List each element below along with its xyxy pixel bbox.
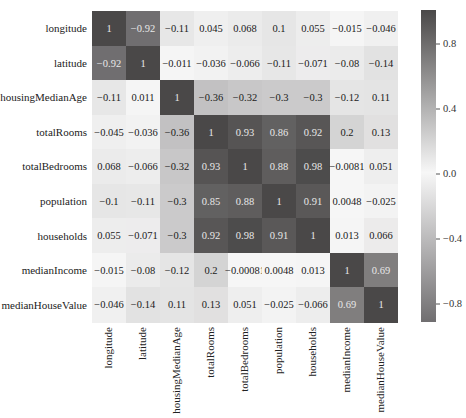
y-tick-label: totalRooms xyxy=(36,126,87,138)
heatmap-cell: −0.066 xyxy=(296,287,330,322)
heatmap-cell: 0.055 xyxy=(92,218,126,253)
y-tick-label: totalBedrooms xyxy=(22,160,87,172)
heatmap-cell: 0.011 xyxy=(126,80,160,115)
heatmap-cell: 1 xyxy=(296,218,330,253)
x-tick-label: latitude xyxy=(136,327,148,418)
colorbar xyxy=(421,10,436,322)
y-tick-label: medianIncome xyxy=(22,264,87,276)
heatmap-cell: 0.055 xyxy=(296,11,330,46)
heatmap-cell: 0.066 xyxy=(364,218,398,253)
heatmap-cell: −0.11 xyxy=(92,80,126,115)
heatmap-cell: 0.2 xyxy=(330,115,364,150)
x-tick-label: housingMedianAge xyxy=(170,327,182,418)
heatmap-cell: 0.068 xyxy=(228,11,262,46)
heatmap-cell: 0.92 xyxy=(296,115,330,150)
heatmap-cell: −0.3 xyxy=(160,218,194,253)
heatmap-cell: −0.046 xyxy=(364,11,398,46)
heatmap-cell: 0.69 xyxy=(364,253,398,288)
heatmap-cell: −0.071 xyxy=(126,218,160,253)
heatmap-cell: −0.071 xyxy=(296,46,330,81)
heatmap-cell: −0.08 xyxy=(330,46,364,81)
heatmap-cell: 0.69 xyxy=(330,287,364,322)
heatmap-cell: 0.13 xyxy=(364,115,398,150)
heatmap-cell: 1 xyxy=(330,253,364,288)
y-tick-label: population xyxy=(40,195,87,207)
x-tick-label: medianIncome xyxy=(340,327,352,418)
heatmap-cell: 1 xyxy=(160,80,194,115)
x-tick-label: totalRooms xyxy=(204,327,216,418)
heatmap-cell: −0.015 xyxy=(330,11,364,46)
heatmap-cell: 0.88 xyxy=(228,184,262,219)
y-tick-label: longitude xyxy=(45,22,87,34)
heatmap-cell: 0.11 xyxy=(160,287,194,322)
heatmap-cell: −0.025 xyxy=(364,184,398,219)
heatmap-cell: −0.36 xyxy=(160,115,194,150)
heatmap-cell: 1 xyxy=(92,11,126,46)
colorbar-tick-label: 0.0 xyxy=(436,167,456,178)
heatmap-cell: −0.3 xyxy=(262,80,296,115)
heatmap-cell: 1 xyxy=(262,184,296,219)
heatmap-cell: 1 xyxy=(364,287,398,322)
heatmap-cell: −0.045 xyxy=(92,115,126,150)
heatmap-cell: −0.11 xyxy=(126,184,160,219)
heatmap-cell: −0.015 xyxy=(92,253,126,288)
heatmap-cell: −0.92 xyxy=(126,11,160,46)
heatmap-cell: −0.025 xyxy=(262,287,296,322)
heatmap-cell: 1 xyxy=(228,149,262,184)
heatmap-cell: −0.3 xyxy=(296,80,330,115)
heatmap-cell: 0.85 xyxy=(194,184,228,219)
heatmap-cell: 1 xyxy=(194,115,228,150)
colorbar-tick-label: −0.4 xyxy=(436,232,462,243)
colorbar-tick-label: −0.8 xyxy=(436,297,462,308)
heatmap-cell: 0.91 xyxy=(262,218,296,253)
heatmap-cell: 1 xyxy=(126,46,160,81)
x-tick-label: households xyxy=(306,327,318,418)
x-tick-label: population xyxy=(272,327,284,418)
heatmap-cell: −0.32 xyxy=(160,149,194,184)
heatmap-cell: −0.066 xyxy=(228,46,262,81)
heatmap-cell: −0.12 xyxy=(330,80,364,115)
heatmap-cell: −0.92 xyxy=(92,46,126,81)
heatmap-cell: 0.068 xyxy=(92,149,126,184)
y-tick-label: medianHouseValue xyxy=(1,299,87,311)
y-tick-label: housingMedianAge xyxy=(0,91,87,103)
heatmap-cell: −0.00081 xyxy=(228,253,262,288)
heatmap-cell: 0.11 xyxy=(364,80,398,115)
heatmap-cell: −0.3 xyxy=(160,184,194,219)
heatmap-cell: −0.08 xyxy=(126,253,160,288)
heatmap-cell: 0.013 xyxy=(296,253,330,288)
heatmap-cell: −0.1 xyxy=(92,184,126,219)
heatmap-cell: −0.14 xyxy=(364,46,398,81)
heatmap-cell: −0.046 xyxy=(92,287,126,322)
heatmap-cell: 0.93 xyxy=(194,149,228,184)
heatmap-cell: 0.93 xyxy=(228,115,262,150)
heatmap-cell: 0.88 xyxy=(262,149,296,184)
colorbar-tick-label: 0.4 xyxy=(436,102,456,113)
heatmap-cell: −0.12 xyxy=(160,253,194,288)
heatmap-cell: −0.36 xyxy=(194,80,228,115)
y-tick-label: households xyxy=(38,230,88,242)
heatmap-cell: 0.98 xyxy=(228,218,262,253)
x-tick-label: medianHouseValue xyxy=(374,327,386,418)
y-tick-label: latitude xyxy=(54,57,87,69)
heatmap-cell: −0.32 xyxy=(228,80,262,115)
heatmap-cell: 0.013 xyxy=(330,218,364,253)
heatmap-cell: −0.036 xyxy=(194,46,228,81)
heatmap-cell: 0.92 xyxy=(194,218,228,253)
heatmap-cell: 0.051 xyxy=(228,287,262,322)
heatmap-cell: 0.2 xyxy=(194,253,228,288)
heatmap-cell: 0.86 xyxy=(262,115,296,150)
x-tick-label: longitude xyxy=(102,327,114,418)
heatmap-cell: 0.0048 xyxy=(262,253,296,288)
heatmap-cell: −0.14 xyxy=(126,287,160,322)
colorbar-tick-label: 0.8 xyxy=(436,37,456,48)
heatmap-cell: 0.91 xyxy=(296,184,330,219)
heatmap-cell: −0.11 xyxy=(160,11,194,46)
heatmap-cell: 0.045 xyxy=(194,11,228,46)
heatmap-cell: 0.98 xyxy=(296,149,330,184)
heatmap-cell: 0.1 xyxy=(262,11,296,46)
heatmap-cell: −0.0081 xyxy=(330,149,364,184)
heatmap-cell: 0.051 xyxy=(364,149,398,184)
heatmap-cell: −0.066 xyxy=(126,149,160,184)
